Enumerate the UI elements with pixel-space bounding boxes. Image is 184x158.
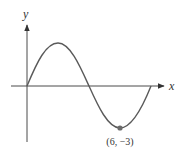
minimum-point-label: (6, −3) xyxy=(106,136,133,148)
x-axis-label: x xyxy=(168,79,175,93)
y-axis-label: y xyxy=(22,7,29,21)
minimum-point-marker xyxy=(117,125,122,130)
sine-graph: y x (6, −3) xyxy=(0,0,184,158)
